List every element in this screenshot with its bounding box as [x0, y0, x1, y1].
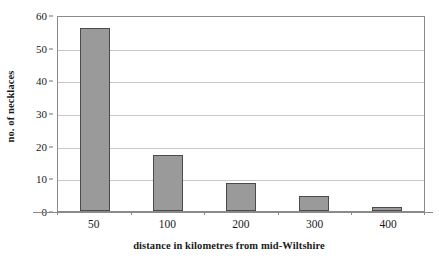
bar-slot	[58, 17, 131, 211]
bar-slot	[131, 17, 204, 211]
bar	[226, 183, 256, 211]
y-axis-tick-labels: 0102030405060	[22, 16, 53, 212]
x-axis-tick-mark	[204, 212, 205, 215]
bar	[80, 28, 110, 211]
bar	[372, 207, 402, 211]
y-axis-tick-label: 30	[36, 109, 47, 120]
y-axis-tick-mark	[49, 48, 53, 49]
x-axis-tick-label: 300	[278, 215, 352, 233]
y-axis-title-text: no. of necklaces	[6, 70, 17, 142]
y-axis-tick-mark	[49, 16, 53, 17]
y-axis-tick-label: 60	[36, 11, 47, 22]
x-axis-tick-slot: 300	[278, 215, 352, 235]
bar-slot	[278, 17, 351, 211]
bar-slot	[204, 17, 277, 211]
y-axis-tick-label: 40	[36, 76, 47, 87]
x-axis-tick-labels: 50100200300400	[57, 215, 425, 235]
x-axis-tick-label: 100	[131, 215, 205, 233]
y-axis-tick-mark	[49, 81, 53, 82]
x-axis-title: distance in kilometres from mid-Wiltshir…	[33, 240, 425, 251]
bar	[299, 196, 329, 211]
x-axis-tick-slot: 50	[57, 215, 131, 235]
bar-slot	[351, 17, 424, 211]
y-axis-tick-mark	[49, 179, 53, 180]
x-axis-tick-mark	[131, 212, 132, 215]
y-axis-tick-mark	[49, 114, 53, 115]
x-axis-line	[33, 212, 433, 213]
y-axis-tick-label: 10	[36, 174, 47, 185]
y-axis-title: no. of necklaces	[0, 0, 22, 212]
x-axis-tick-slot: 100	[131, 215, 205, 235]
bar	[153, 155, 183, 211]
x-axis-tick-mark	[424, 212, 425, 215]
x-axis-tick-mark	[278, 212, 279, 215]
y-axis-tick-label: 20	[36, 141, 47, 152]
bar-chart-figure: no. of necklaces 0102030405060 501002003…	[0, 0, 439, 263]
x-axis-tick-label: 400	[351, 215, 425, 233]
bars-layer	[58, 17, 424, 211]
x-axis-tick-mark	[351, 212, 352, 215]
plot-area	[57, 16, 425, 212]
y-axis-tick-label: 50	[36, 43, 47, 54]
x-axis-tick-label: 50	[57, 215, 131, 233]
x-axis-tick-mark	[57, 212, 58, 215]
x-axis-tick-label: 200	[204, 215, 278, 233]
x-axis-tick-slot: 200	[204, 215, 278, 235]
x-axis-tick-slot: 400	[351, 215, 425, 235]
y-axis-tick-mark	[49, 146, 53, 147]
